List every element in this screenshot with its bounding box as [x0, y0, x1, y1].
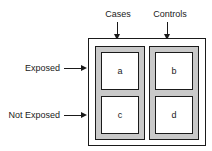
case-control-diagram: Cases Controls Exposed Not Exposed a c b…: [0, 0, 212, 151]
column-header-controls: Controls: [145, 9, 195, 20]
right-arrow-icon-not-exposed: [64, 111, 88, 120]
cell-a: a: [101, 52, 139, 90]
arrow-head: [81, 112, 87, 118]
group-column-controls: b d: [149, 46, 199, 140]
right-arrow-icon-exposed: [64, 64, 88, 73]
cell-b: b: [155, 52, 193, 90]
row-header-exposed: Exposed: [0, 63, 60, 74]
arrow-head: [81, 65, 87, 71]
row-header-not-exposed: Not Exposed: [0, 110, 60, 121]
group-column-cases: a c: [95, 46, 145, 140]
cell-d: d: [155, 96, 193, 134]
cell-c: c: [101, 96, 139, 134]
column-header-cases: Cases: [100, 9, 136, 20]
arrow-shaft: [64, 115, 82, 116]
study-population-box: a c b d: [88, 38, 206, 146]
arrow-shaft: [64, 68, 82, 69]
